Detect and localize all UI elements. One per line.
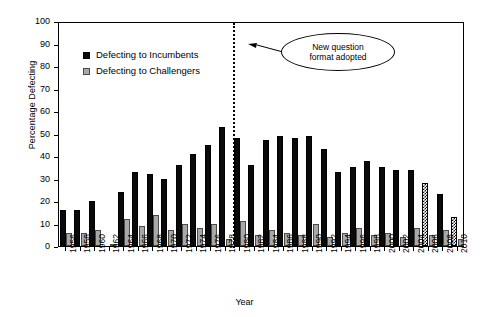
x-tick-mark-1986 (283, 247, 284, 251)
challenger-swatch-icon (83, 68, 90, 75)
x-tick-mark-1974 (196, 247, 197, 251)
y-tick-mark-10 (54, 225, 58, 226)
x-tick-mark-1964 (123, 247, 124, 251)
x-tick-label-2010: 2010 (460, 234, 469, 253)
x-tick-label-2002: 2002 (402, 234, 411, 253)
x-tick-label-1992: 1992 (330, 234, 339, 253)
bar-incumbents-1990 (306, 136, 312, 246)
x-tick-mark-1992 (326, 247, 327, 251)
x-axis-label: Year (0, 297, 489, 307)
event-dashed-line (233, 23, 235, 248)
x-tick-label-1964: 1964 (127, 234, 136, 253)
y-tick-label-60: 60 (24, 107, 50, 116)
legend-item-incumbents: Defecting to Incumbents (83, 48, 200, 62)
y-tick-mark-60 (54, 112, 58, 113)
x-tick-mark-1958 (80, 247, 81, 251)
bar-incumbents-1988 (292, 138, 298, 246)
x-tick-mark-2006 (428, 247, 429, 251)
x-tick-mark-2000 (384, 247, 385, 251)
y-tick-mark-20 (54, 202, 58, 203)
x-tick-mark-2008 (442, 247, 443, 251)
annotation-line-2: format adopted (309, 52, 366, 62)
x-tick-mark-1968 (152, 247, 153, 251)
y-tick-label-20: 20 (24, 197, 50, 206)
bar-incumbents-1974 (190, 154, 196, 246)
x-tick-label-1966: 1966 (141, 234, 150, 253)
x-tick-label-1958: 1958 (83, 234, 92, 253)
y-tick-label-0: 0 (24, 242, 50, 251)
x-tick-mark-1978 (225, 247, 226, 251)
x-tick-mark-1980 (239, 247, 240, 251)
annotation-callout: New question format adopted (281, 33, 395, 71)
y-tick-mark-90 (54, 45, 58, 46)
y-tick-mark-100 (54, 22, 58, 23)
incumbent-swatch-icon (83, 52, 90, 59)
x-tick-mark-1990 (312, 247, 313, 251)
x-tick-mark-1982 (254, 247, 255, 251)
annotation-line-1: New question (312, 42, 364, 52)
x-tick-label-2004: 2004 (417, 234, 426, 253)
x-tick-label-1996: 1996 (359, 234, 368, 253)
legend-item-challengers: Defecting to Challengers (83, 64, 200, 78)
y-tick-mark-70 (54, 90, 58, 91)
x-tick-label-1978: 1978 (228, 234, 237, 253)
legend-label-incumbents: Defecting to Incumbents (96, 50, 198, 60)
x-tick-label-1984: 1984 (272, 234, 281, 253)
y-tick-mark-50 (54, 135, 58, 136)
x-tick-mark-2002 (399, 247, 400, 251)
x-tick-mark-1962 (109, 247, 110, 251)
legend-label-challengers: Defecting to Challengers (96, 66, 200, 76)
x-tick-label-1960: 1960 (98, 234, 107, 253)
chart-figure: Percentage Defecting 0102030405060708090… (0, 0, 489, 317)
x-tick-mark-1966 (138, 247, 139, 251)
x-tick-mark-2004 (413, 247, 414, 251)
x-tick-label-1972: 1972 (185, 234, 194, 253)
x-tick-label-1986: 1986 (286, 234, 295, 253)
x-tick-mark-1972 (181, 247, 182, 251)
x-tick-mark-1956 (65, 247, 66, 251)
annotation-arrow-icon (248, 43, 284, 53)
x-tick-label-1982: 1982 (257, 234, 266, 253)
y-tick-mark-30 (54, 180, 58, 181)
x-tick-label-1976: 1976 (214, 234, 223, 253)
x-tick-mark-1976 (210, 247, 211, 251)
y-tick-label-50: 50 (24, 130, 50, 139)
bar-incumbents-1984 (263, 140, 269, 246)
x-tick-mark-1994 (341, 247, 342, 251)
y-tick-label-100: 100 (24, 17, 50, 26)
y-tick-label-10: 10 (24, 220, 50, 229)
y-tick-mark-40 (54, 157, 58, 158)
bar-incumbents-1956 (60, 210, 66, 246)
bar-incumbents-1986 (277, 136, 283, 246)
x-tick-label-1970: 1970 (170, 234, 179, 253)
x-tick-mark-1960 (94, 247, 95, 251)
x-tick-label-1956: 1956 (69, 234, 78, 253)
x-tick-label-1998: 1998 (373, 234, 382, 253)
x-tick-label-1990: 1990 (315, 234, 324, 253)
y-tick-label-70: 70 (24, 85, 50, 94)
x-tick-label-2000: 2000 (388, 234, 397, 253)
x-tick-label-2006: 2006 (431, 234, 440, 253)
x-tick-label-2008: 2008 (446, 234, 455, 253)
y-tick-label-90: 90 (24, 40, 50, 49)
x-tick-mark-1998 (370, 247, 371, 251)
x-tick-mark-1984 (268, 247, 269, 251)
x-tick-label-1988: 1988 (301, 234, 310, 253)
x-tick-mark-2010 (457, 247, 458, 251)
bar-incumbents-1978 (219, 127, 225, 246)
x-tick-mark-1988 (297, 247, 298, 251)
y-tick-mark-0 (54, 247, 58, 248)
y-tick-label-30: 30 (24, 175, 50, 184)
bar-incumbents-1976 (205, 145, 211, 246)
x-tick-label-1962: 1962 (112, 234, 121, 253)
x-tick-label-1974: 1974 (199, 234, 208, 253)
chart-legend: Defecting to Incumbents Defecting to Cha… (83, 48, 200, 80)
x-tick-label-1994: 1994 (344, 234, 353, 253)
x-tick-label-1980: 1980 (243, 234, 252, 253)
x-tick-mark-1996 (355, 247, 356, 251)
x-tick-mark-1970 (167, 247, 168, 251)
y-tick-mark-80 (54, 67, 58, 68)
bar-incumbents-1992 (321, 149, 327, 246)
y-tick-label-80: 80 (24, 62, 50, 71)
y-tick-label-40: 40 (24, 152, 50, 161)
